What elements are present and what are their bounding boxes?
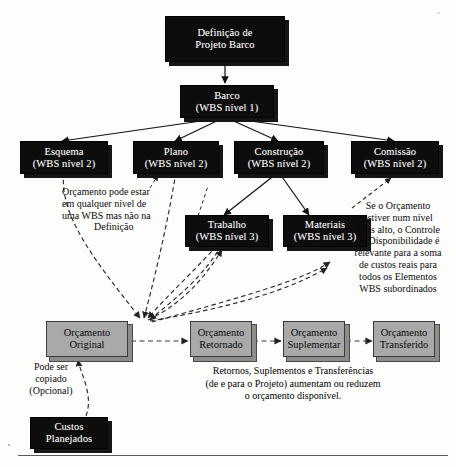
node-line-1: Definição de (197, 27, 252, 39)
node-line-2: (WBS nível 2) (33, 158, 96, 170)
node-line-2: (WBS nível 2) (248, 158, 311, 170)
node-line-1: Orçamento (381, 327, 428, 339)
node-plano[interactable]: Plano (WBS nível 2) (133, 141, 219, 174)
note-copy-optional: Pode ser copiado (Opcional) (12, 361, 90, 396)
node-line-2: Original (70, 339, 105, 351)
note-line: de Disponibilidade é (357, 235, 440, 246)
node-line-1: Trabalho (208, 219, 246, 231)
note-budget-level: Orçamento pode estar em qualquer nível d… (62, 186, 212, 233)
node-orcamento-transferido[interactable]: Orçamento Transferido (373, 321, 435, 357)
node-orcamento-retornado[interactable]: Orçamento Retornado (190, 321, 252, 357)
node-line-1: Comissão (374, 146, 416, 158)
caption-line: Retornos, Suplementos e Transferências (213, 365, 374, 376)
note-line: relevante para a soma (355, 247, 442, 258)
node-line-2: Transferido (380, 339, 429, 351)
scan-speck (437, 12, 440, 14)
node-comissao[interactable]: Comissão (WBS nível 2) (351, 141, 439, 174)
note-line: (Opcional) (29, 385, 72, 396)
note-line: WBS subordinados (359, 283, 437, 294)
scan-speck (8, 444, 10, 446)
note-line: estiver num nível (363, 212, 432, 223)
node-line-1: Barco (214, 90, 240, 102)
node-line-1: Orçamento (291, 327, 338, 339)
note-line: Se o Orçamento (366, 200, 430, 211)
bottom-caption: Retornos, Suplementos e Transferências (… (136, 365, 450, 403)
note-line: Pode ser (34, 361, 68, 372)
note-line: em qualquer nível de (62, 198, 146, 209)
node-line-1: Orçamento (198, 327, 245, 339)
node-line-1: Esquema (44, 146, 83, 158)
node-line-2: Suplementar (287, 339, 340, 351)
node-line-2: Retornado (199, 339, 243, 351)
note-line: copiado (35, 373, 67, 384)
note-line: Orçamento pode estar (62, 186, 150, 197)
note-line: Definição (62, 221, 133, 233)
node-line-2: (WBS nível 1) (196, 102, 259, 114)
note-line: todos os Elementos (359, 271, 437, 282)
node-custos-planejados[interactable]: Custos Planejados (30, 417, 108, 449)
node-line-1: Custos (54, 421, 83, 433)
node-line-2: Planejados (46, 433, 93, 445)
node-line-1: Plano (164, 146, 188, 158)
node-orcamento-original[interactable]: Orçamento Original (46, 321, 128, 357)
caption-line: (de e para o Projeto) aumentam ou reduze… (205, 378, 380, 389)
node-barco[interactable]: Barco (WBS nível 1) (180, 85, 274, 118)
note-line: mais alto, o Controle (356, 224, 440, 235)
node-line-2: Projeto Barco (195, 39, 254, 51)
node-construcao[interactable]: Construção (WBS nível 2) (234, 141, 324, 174)
node-line-1: Construção (255, 146, 304, 158)
bottom-divider (18, 455, 448, 456)
node-line-2: (WBS nível 2) (145, 158, 208, 170)
wbs-budget-diagram: Definição de Projeto Barco Barco (WBS ní… (0, 0, 456, 467)
node-line-2: (WBS nível 2) (364, 158, 427, 170)
note-line: de custos reais para (359, 259, 437, 270)
note-line: uma WBS mas não na (62, 210, 151, 221)
node-line-1: Orçamento (64, 327, 111, 339)
node-orcamento-suplementar[interactable]: Orçamento Suplementar (283, 321, 345, 357)
note-availability-control: Se o Orçamento estiver num nível mais al… (340, 200, 456, 294)
caption-line: o orçamento disponível. (245, 390, 341, 401)
node-esquema[interactable]: Esquema (WBS nível 2) (20, 141, 108, 174)
node-definicao-projeto-barco[interactable]: Definição de Projeto Barco (165, 16, 285, 62)
